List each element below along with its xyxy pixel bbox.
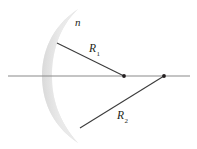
radius-2-label-group: R 2 [116, 109, 129, 125]
refractive-index-label: n [75, 16, 81, 28]
radius-1-subscript: 1 [97, 50, 101, 58]
center-of-curvature-2-dot [162, 74, 166, 78]
radius-1-label-group: R 1 [88, 42, 101, 58]
center-of-curvature-1-dot [122, 74, 126, 78]
radius-2-label: R [116, 109, 124, 121]
radius-2-subscript: 2 [125, 117, 129, 125]
figure-root: n R 1 R 2 [0, 0, 197, 149]
radius-1-label: R [88, 42, 96, 54]
optics-diagram-canvas: n R 1 R 2 [0, 0, 197, 149]
